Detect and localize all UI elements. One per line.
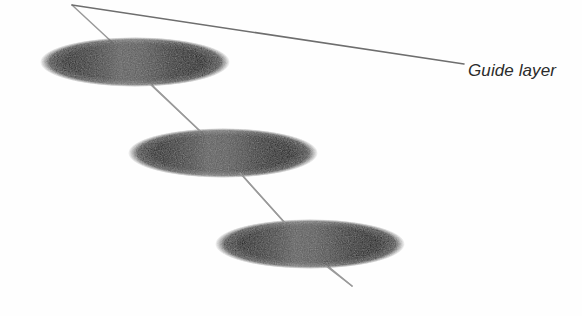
disc-middle [128,128,318,178]
guide-layer-illustration [0,0,582,316]
illustration-canvas: Guide layer [0,0,582,316]
disc-top [40,37,230,87]
guide-layer-label: Guide layer [468,62,556,79]
disc-bottom [215,219,405,269]
